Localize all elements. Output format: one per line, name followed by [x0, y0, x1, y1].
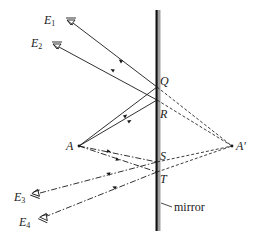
label-Q: Q: [160, 74, 169, 88]
label-T: T: [160, 172, 168, 186]
label-E3: E3: [13, 190, 25, 205]
mirror-surface: [156, 10, 158, 231]
eye-icon-E4: [38, 211, 50, 222]
virtual-ray-S-to-A-prime: [157, 146, 232, 162]
label-R: R: [159, 107, 168, 121]
ray-S-to-E3: [40, 162, 157, 193]
ray-T-to-E4: [47, 172, 157, 216]
arrow-icon: [110, 68, 115, 73]
point-A-prime: [231, 145, 234, 148]
virtual-ray-R-to-A-prime: [157, 100, 232, 146]
solid-rays: [59, 23, 157, 146]
label-mirror: mirror: [174, 200, 205, 214]
label-E2: E2: [30, 36, 42, 51]
mirror-pointer-line: [161, 203, 172, 207]
ray-R-to-E2: [59, 47, 157, 100]
virtual-ray-T-to-A-prime: [157, 146, 232, 172]
label-E4: E4: [18, 215, 30, 230]
point-A: [78, 145, 81, 148]
dash-dot-rays: [40, 146, 157, 216]
arrow-icon: [127, 118, 132, 123]
label-A: A: [65, 139, 74, 153]
ray-A-to-R: [79, 100, 157, 146]
virtual-rays: [157, 87, 232, 172]
mirror-ray-diagram: E1 E2 E3 E4 Q R S T A A′ mirror: [0, 0, 263, 241]
label-S: S: [160, 149, 166, 163]
label-A-prime: A′: [235, 139, 246, 153]
label-E1: E1: [43, 13, 55, 28]
ray-A-to-Q: [79, 87, 157, 146]
virtual-ray-Q-to-A-prime: [157, 87, 232, 146]
dash-dot-ray-arrows: [106, 149, 121, 189]
